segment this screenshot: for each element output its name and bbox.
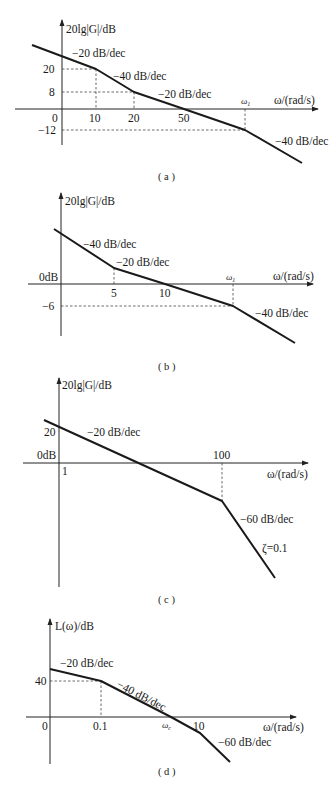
y-axis-label-b: 20lg|G|/dB xyxy=(65,195,115,208)
guides-b xyxy=(61,268,233,306)
y-axis-label-a: 20lg|G|/dB xyxy=(66,23,116,36)
slope-label-d-1: −20 dB/dec xyxy=(60,657,113,669)
y-axis-label-d: L(ω)/dB xyxy=(55,620,94,633)
x-tick-b-5: 5 xyxy=(111,287,117,299)
magnitude-curve-c xyxy=(44,420,275,578)
slope-label-a-1: −20 dB/dec xyxy=(72,47,125,59)
y-tick-a-minus12: −12 xyxy=(38,124,56,136)
slope-label-b-2: −20 dB/dec xyxy=(116,256,169,268)
chart-b: 20lg|G|/dB −40 dB/dec −20 dB/dec −40 dB/… xyxy=(28,193,314,373)
magnitude-curve-d xyxy=(50,669,230,762)
x-tick-b-10: 10 xyxy=(159,287,171,299)
x-tick-a-20: 20 xyxy=(128,112,140,124)
caption-a: ( a ) xyxy=(158,171,175,183)
x-axis-label-a: ω/(rad/s) xyxy=(274,94,315,107)
slope-label-d-3: −60 dB/dec xyxy=(218,736,271,748)
y-tick-a-20: 20 xyxy=(43,63,55,75)
guides-d xyxy=(50,681,101,717)
x-tick-c-1: 1 xyxy=(62,465,68,477)
caption-c: ( c ) xyxy=(158,594,175,606)
y-tick-c-20: 20 xyxy=(44,426,56,438)
slope-label-b-1: −40 dB/dec xyxy=(83,238,136,250)
slope-label-c-2: −60 dB/dec xyxy=(240,513,293,525)
y-tick-c-0db: 0dB xyxy=(37,449,57,461)
y-tick-b-minus6: −6 xyxy=(42,300,54,312)
x-axis-label-c: ω/(rad/s) xyxy=(267,468,308,481)
y-tick-b-0db: 0dB xyxy=(39,271,59,283)
slope-label-c-1: −20 dB/dec xyxy=(87,426,140,438)
y-tick-a-0: 0 xyxy=(52,112,58,124)
x-tick-a-50: 50 xyxy=(178,112,190,124)
slope-label-a-3: −20 dB/dec xyxy=(158,88,211,100)
slope-label-a-4: −40 dB/dec xyxy=(275,135,328,147)
x-axis-label-b: ω/(rad/s) xyxy=(273,270,314,283)
y-tick-d-0: 0 xyxy=(42,720,48,732)
zeta-annotation-c: ζ=0.1 xyxy=(262,542,288,555)
x-tick-d-10: 10 xyxy=(193,720,205,732)
x-tick-a-omega1: ω1 xyxy=(241,96,250,107)
x-axis-label-d: ω/(rad/s) xyxy=(263,721,304,734)
magnitude-curve-a xyxy=(32,45,302,163)
y-axis-label-c: 20lg|G|/dB xyxy=(62,379,112,392)
x-tick-d-omega-c: ωc xyxy=(162,720,171,731)
y-tick-d-40: 40 xyxy=(35,675,47,687)
slope-label-a-2: −40 dB/dec xyxy=(113,70,166,82)
x-tick-c-100: 100 xyxy=(213,449,231,461)
slope-label-b-3: −40 dB/dec xyxy=(255,307,308,319)
chart-a: 20lg|G|/dB −20 dB/dec −40 dB/dec −20 dB/… xyxy=(15,20,328,183)
x-tick-d-0.1: 0.1 xyxy=(93,720,108,732)
caption-d: ( d ) xyxy=(158,766,176,778)
y-tick-a-8: 8 xyxy=(49,86,55,98)
chart-c: 20lg|G|/dB −20 dB/dec −60 dB/dec ζ=0.1 2… xyxy=(23,378,308,606)
slope-label-d-2: −40 dB/dec xyxy=(115,678,168,713)
caption-b: ( b ) xyxy=(158,361,176,373)
x-tick-a-10: 10 xyxy=(89,112,101,124)
x-tick-b-omega1: ω1 xyxy=(226,272,235,283)
chart-d: L(ω)/dB −20 dB/dec −40 dB/dec −60 dB/dec… xyxy=(26,619,304,778)
bode-plots-figure: 20lg|G|/dB −20 dB/dec −40 dB/dec −20 dB/… xyxy=(0,0,334,790)
